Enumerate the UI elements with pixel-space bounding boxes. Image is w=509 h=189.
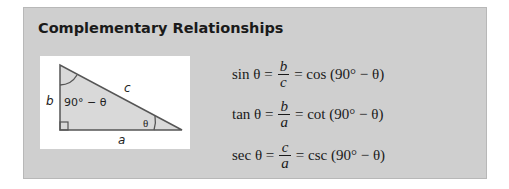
denominator: a [279,156,291,171]
equation-rhs: = cot (90° − θ) [295,106,383,123]
equation-lhs: sec θ = [232,147,274,164]
label-theta: θ [143,117,148,129]
numerator: b [278,59,290,74]
equation-rhs: = csc (90° − θ) [296,147,385,164]
complementary-relationships-box: Complementary Relationships c b a 90° − … [23,7,487,179]
denominator: c [278,75,289,90]
fraction: b a [278,99,290,130]
right-triangle-diagram: c b a 90° − θ θ [40,56,190,149]
equation-lhs: sin θ = [232,66,273,83]
label-c: c [124,81,131,95]
numerator: b [278,99,290,114]
fraction: b c [278,59,290,90]
box-title: Complementary Relationships [38,20,283,36]
equation-sec: sec θ = c a = csc (90° − θ) [232,137,385,173]
equation-lhs: tan θ = [232,106,273,123]
equation-sin: sin θ = b c = cos (90° − θ) [232,56,384,92]
label-a: a [118,133,125,147]
equation-rhs: = cos (90° − θ) [294,66,384,83]
fraction: c a [279,140,291,171]
equation-tan: tan θ = b a = cot (90° − θ) [232,96,383,132]
denominator: a [278,115,290,130]
triangle-figure-panel: c b a 90° − θ θ [40,56,190,149]
label-top-angle: 90° − θ [64,96,107,109]
numerator: c [280,140,291,155]
label-b: b [46,94,54,108]
